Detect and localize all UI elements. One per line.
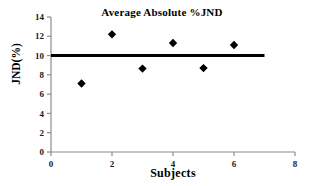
data-point-marker	[108, 30, 116, 38]
y-tick-label: 2	[40, 128, 45, 138]
x-axis: 02468	[49, 152, 298, 169]
y-tick-label: 4	[40, 109, 45, 119]
y-tick-label: 0	[40, 147, 45, 157]
x-tick-label: 8	[293, 159, 298, 169]
x-tick-label: 4	[171, 159, 176, 169]
y-axis: 02468101214	[35, 12, 51, 157]
data-points	[77, 30, 238, 88]
data-point-marker	[138, 64, 146, 72]
y-tick-label: 8	[40, 70, 45, 80]
y-tick-label: 10	[35, 51, 45, 61]
y-tick-label: 12	[35, 31, 45, 41]
x-tick-label: 0	[49, 159, 54, 169]
data-point-marker	[169, 39, 177, 47]
data-point-marker	[199, 64, 207, 72]
chart-container: Average Absolute %JND JND(%) Subjects 02…	[0, 0, 311, 186]
y-tick-label: 6	[40, 89, 45, 99]
x-tick-label: 2	[110, 159, 115, 169]
y-tick-label: 14	[35, 12, 45, 22]
x-tick-label: 6	[232, 159, 237, 169]
data-point-marker	[77, 79, 85, 87]
data-point-marker	[230, 41, 238, 49]
plot-area: 02468101214 02468	[0, 0, 311, 186]
